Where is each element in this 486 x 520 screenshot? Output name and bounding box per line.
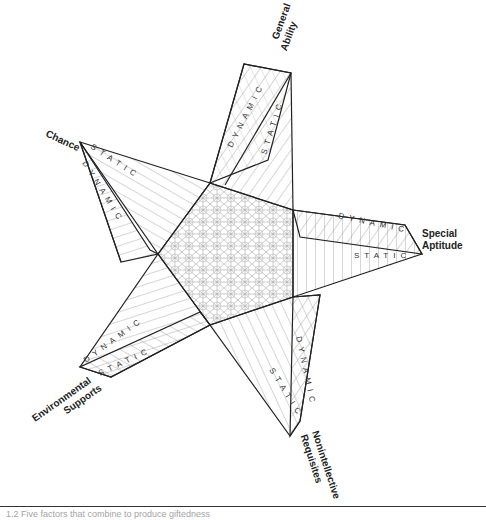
- label-chance: Chance: [44, 128, 82, 153]
- label-nonintellective-requisites: Nonintellective Requisites: [299, 429, 344, 506]
- label-special-aptitude: Special Aptitude: [422, 228, 463, 251]
- caption-divider: [0, 506, 486, 507]
- band-label-static: STATIC: [354, 251, 411, 260]
- figure-caption: 1.2 Five factors that combine to produce…: [6, 509, 210, 519]
- label-environmental-supports: Environmental Supports: [30, 372, 104, 433]
- arm-special-aptitude: DYNAMIC STATIC: [293, 210, 422, 297]
- giftedness-star-diagram: DYNAMIC STATIC DYNAMIC STATIC DYNAMIC ST…: [0, 0, 486, 520]
- label-general-ability: General Ability: [267, 0, 305, 52]
